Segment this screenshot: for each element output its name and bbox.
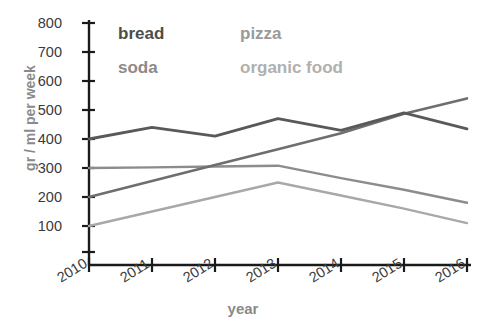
x-axis-label: year xyxy=(0,300,486,317)
series-line-organic-food xyxy=(89,183,467,227)
series-lines xyxy=(89,98,467,226)
axis-lines xyxy=(89,20,471,266)
line-chart: gr / ml per week 800 700 600 500 400 300… xyxy=(0,0,486,331)
chart-canvas xyxy=(0,0,486,331)
series-line-bread xyxy=(89,113,467,139)
series-line-pizza xyxy=(89,166,467,203)
